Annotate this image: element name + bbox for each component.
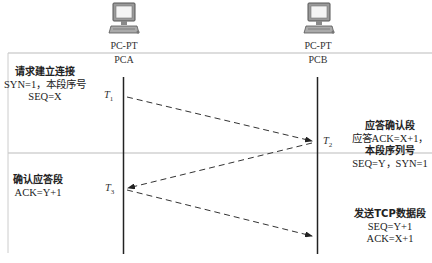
- pca-computer-icon: [108, 2, 140, 40]
- synack-note-line3: 本段序列号: [348, 145, 432, 158]
- ack-data-arrow: [127, 190, 312, 236]
- synack-note-line2: 应答ACK=X+1，: [348, 133, 432, 146]
- ack-note-title: 确认应答段: [8, 174, 68, 187]
- synack-arrow: [128, 143, 312, 188]
- data-note-line3: ACK=X+1: [350, 233, 430, 246]
- pcb-type-label: PC-PT: [288, 40, 348, 52]
- t1-marker: T1: [104, 89, 113, 103]
- syn-arrow: [127, 97, 312, 141]
- data-note: 发送TCP数据段 SEQ=Y+1 ACK=X+1: [350, 208, 430, 246]
- pca-name-label: PCA: [94, 54, 154, 66]
- t3-marker: T3: [105, 182, 114, 196]
- data-note-line2: SEQ=Y+1: [350, 221, 430, 234]
- synack-note-line4: SEQ=Y，SYN=1: [348, 158, 432, 171]
- ack-note-line2: ACK=Y+1: [8, 187, 68, 200]
- syn-note: 请求建立连接 SYN=1，本段序号 SEQ=X: [4, 66, 86, 104]
- t2-marker: T2: [323, 135, 332, 149]
- synack-note-title: 应答确认段: [348, 120, 432, 133]
- desktop-computer-icon: [303, 2, 335, 36]
- syn-note-line2: SYN=1，本段序号: [4, 79, 86, 92]
- syn-note-line3: SEQ=X: [4, 91, 86, 104]
- synack-note: 应答确认段 应答ACK=X+1， 本段序列号 SEQ=Y，SYN=1: [348, 120, 432, 170]
- data-note-title: 发送TCP数据段: [350, 208, 430, 221]
- pcb-computer-icon: [303, 2, 335, 40]
- pcb-name-label: PCB: [288, 54, 348, 66]
- desktop-computer-icon: [108, 2, 140, 36]
- pca-type-label: PC-PT: [94, 40, 154, 52]
- syn-note-title: 请求建立连接: [4, 66, 86, 79]
- ack-note: 确认应答段 ACK=Y+1: [8, 174, 68, 199]
